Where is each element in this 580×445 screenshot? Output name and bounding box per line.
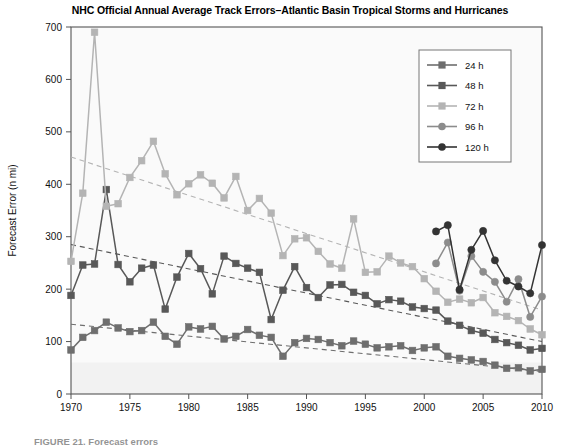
data-point: [491, 278, 498, 285]
data-point: [409, 263, 416, 270]
data-point: [174, 191, 181, 198]
data-point: [491, 257, 498, 264]
y-tick-label: 300: [45, 231, 62, 242]
data-point: [197, 326, 204, 333]
data-point: [68, 347, 75, 354]
legend-label: 96 h: [465, 121, 484, 132]
data-point: [303, 284, 310, 291]
data-point: [539, 345, 546, 352]
data-point: [386, 296, 393, 303]
x-tick-label: 1980: [178, 402, 201, 413]
data-point: [350, 216, 357, 223]
data-point: [256, 269, 263, 276]
data-point: [432, 228, 439, 235]
data-point: [91, 29, 98, 36]
data-point: [174, 341, 181, 348]
data-point: [433, 307, 440, 314]
x-tick-label: 1975: [119, 402, 142, 413]
data-point: [79, 262, 86, 269]
data-point: [539, 366, 546, 373]
data-point: [374, 301, 381, 308]
y-tick-label: 400: [45, 179, 62, 190]
data-point: [421, 275, 428, 282]
data-point: [386, 344, 393, 351]
data-point: [480, 268, 487, 275]
data-point: [91, 261, 98, 268]
data-point: [303, 335, 310, 342]
data-point: [480, 227, 487, 234]
data-point: [174, 274, 181, 281]
data-point: [291, 263, 298, 270]
data-point: [432, 260, 439, 267]
data-point: [444, 222, 451, 229]
data-point: [185, 180, 192, 187]
x-tick-label: 1970: [60, 402, 83, 413]
data-point: [397, 298, 404, 305]
data-point: [539, 331, 546, 338]
data-point: [527, 347, 534, 354]
data-point: [468, 357, 475, 364]
legend-label: 24 h: [465, 60, 484, 71]
data-point: [527, 326, 534, 333]
x-tick-label: 2010: [531, 402, 554, 413]
data-point: [162, 333, 169, 340]
data-point: [103, 319, 110, 326]
data-point: [480, 330, 487, 337]
data-point: [350, 289, 357, 296]
data-point: [456, 322, 463, 329]
data-point: [327, 282, 334, 289]
data-point: [492, 309, 499, 316]
data-point: [115, 325, 122, 332]
chart-legend[interactable]: 24 h48 h72 h96 h120 h: [419, 50, 511, 162]
data-point: [538, 293, 545, 300]
data-point: [209, 180, 216, 187]
data-point: [280, 252, 287, 259]
data-point: [244, 265, 251, 272]
data-point: [421, 345, 428, 352]
data-point: [362, 341, 369, 348]
data-point: [233, 173, 240, 180]
data-point: [397, 342, 404, 349]
data-point: [197, 172, 204, 179]
y-tick-label: 700: [45, 22, 62, 33]
data-point: [515, 364, 522, 371]
data-point: [445, 353, 452, 360]
y-tick-label: 500: [45, 126, 62, 137]
data-point: [162, 306, 169, 313]
data-point: [233, 333, 240, 340]
data-point: [527, 313, 534, 320]
data-point: [244, 326, 251, 333]
data-point: [79, 190, 86, 197]
data-point: [362, 292, 369, 299]
data-point: [527, 368, 534, 375]
data-point: [327, 339, 334, 346]
x-tick-label: 1995: [354, 402, 377, 413]
data-point: [138, 327, 145, 334]
data-point: [315, 294, 322, 301]
data-point: [244, 207, 251, 214]
data-point: [397, 260, 404, 267]
data-point: [256, 332, 263, 339]
data-point: [409, 304, 416, 311]
figure-caption: FIGURE 21. Forecast errors: [34, 436, 158, 445]
data-point: [503, 365, 510, 372]
data-point: [103, 186, 110, 193]
data-point: [291, 339, 298, 346]
data-point: [221, 195, 228, 202]
data-point: [538, 242, 545, 249]
data-point: [209, 323, 216, 330]
y-tick-label: 100: [45, 336, 62, 347]
data-point: [115, 261, 122, 268]
plot-area-wrapper: 0100200300400500600700197019751980198519…: [0, 0, 580, 445]
data-point: [280, 353, 287, 360]
data-point: [197, 265, 204, 272]
line-chart: 0100200300400500600700197019751980198519…: [0, 0, 580, 420]
data-point: [433, 344, 440, 351]
data-point: [315, 248, 322, 255]
data-point: [492, 336, 499, 343]
legend-marker: [438, 61, 445, 68]
data-point: [91, 327, 98, 334]
data-point: [268, 334, 275, 341]
data-point: [456, 286, 463, 293]
data-point: [103, 203, 110, 210]
